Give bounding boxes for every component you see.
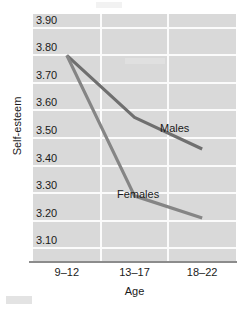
- x-axis-title: Age: [33, 285, 236, 297]
- scan-artifact-caption: [6, 296, 32, 304]
- scan-artifact-middle: [125, 58, 165, 64]
- x-axis-line: [29, 261, 237, 263]
- y-axis-tick-label: 3.80: [36, 41, 57, 53]
- gridline-vertical: [100, 14, 102, 262]
- gridline-horizontal: [33, 82, 236, 84]
- y-axis-tick-label: 3.60: [36, 96, 57, 108]
- series-label-females: Females: [117, 188, 159, 200]
- plot-area: [33, 14, 236, 262]
- series-label-males: Males: [160, 122, 189, 134]
- gridline-horizontal: [33, 109, 236, 111]
- gridline-vertical: [167, 14, 169, 262]
- x-axis-tick-label: 9–12: [37, 266, 97, 278]
- y-axis-tick-label: 3.10: [36, 234, 57, 246]
- gridline-horizontal: [33, 165, 236, 167]
- x-axis-tick-label: 13–17: [105, 266, 165, 278]
- chart-figure: 3.903.803.703.603.503.403.303.203.10 9–1…: [0, 0, 247, 310]
- y-axis-tick-label: 3.70: [36, 69, 57, 81]
- gridline-horizontal: [33, 220, 236, 222]
- y-axis-tick-label: 3.30: [36, 179, 57, 191]
- gridline-horizontal: [33, 247, 236, 249]
- y-axis-tick-label: 3.50: [36, 124, 57, 136]
- gridline-horizontal: [33, 54, 236, 56]
- scan-artifact-top: [96, 2, 122, 8]
- y-axis-tick-label: 3.90: [36, 14, 57, 26]
- gridline-horizontal: [33, 27, 236, 29]
- y-axis-tick-label: 3.40: [36, 152, 57, 164]
- x-axis-tick-label: 18–22: [172, 266, 232, 278]
- y-axis-tick-label: 3.20: [36, 207, 57, 219]
- gridline-horizontal: [33, 137, 236, 139]
- y-axis-title: Self-esteem: [11, 76, 23, 176]
